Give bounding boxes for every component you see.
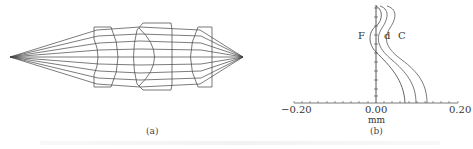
ray-trace-diagram [10,23,243,90]
curve-label-F: F [358,30,365,41]
rays [10,27,243,87]
figure-canvas [0,0,473,149]
x-axis-unit-label: mm [368,115,385,125]
x-tick-label-pos: 0.20 [449,104,471,115]
panel-a-label: (a) [146,126,158,136]
curve-C [386,6,427,103]
curve-label-C: C [398,30,406,41]
curve-F [370,6,405,103]
curve-d [378,6,416,103]
faded-caption-line [40,141,440,145]
x-tick-label-neg: −0.20 [281,104,312,115]
aberration-plot [294,5,458,103]
curve-label-d: d [384,30,390,41]
x-tick-label-zero: 0.00 [365,104,387,115]
panel-b-label: (b) [370,126,383,136]
